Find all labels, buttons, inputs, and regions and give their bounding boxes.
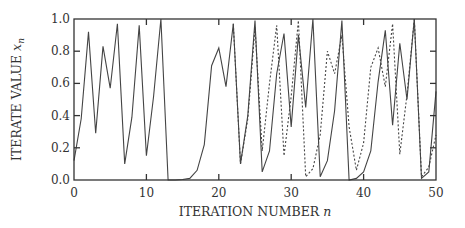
x-tick-label: 30	[284, 186, 299, 200]
y-tick-labels: 0.00.20.40.60.81.0	[51, 12, 70, 187]
x-axis-title: ITERATION NUMBER n	[179, 204, 332, 219]
chart: 01020304050 0.00.20.40.60.81.0 ITERATION…	[0, 0, 465, 228]
series-solid-line	[74, 19, 436, 180]
y-tick-label: 0.0	[51, 173, 70, 187]
x-tick-label: 0	[70, 186, 78, 200]
ticks-layer	[74, 19, 436, 180]
x-tick-label: 50	[428, 186, 443, 200]
plot-frame	[74, 19, 436, 180]
x-tick-label: 40	[356, 186, 371, 200]
x-tick-label: 10	[139, 186, 154, 200]
y-tick-label: 0.2	[51, 141, 70, 155]
y-tick-label: 0.6	[51, 76, 70, 90]
x-tick-label: 20	[211, 186, 226, 200]
y-tick-label: 1.0	[51, 12, 70, 26]
x-tick-labels: 01020304050	[70, 186, 443, 200]
series-layer	[74, 19, 436, 180]
series-dashed-line	[233, 19, 436, 177]
y-axis-title: ITERATE VALUE xn	[9, 38, 26, 161]
y-tick-label: 0.8	[51, 44, 70, 58]
y-tick-label: 0.4	[51, 109, 70, 123]
